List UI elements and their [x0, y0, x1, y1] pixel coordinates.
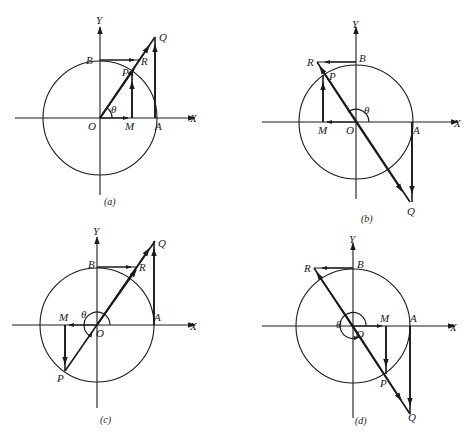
y-axis-label: Y: [352, 18, 360, 30]
point-b-label: B: [357, 258, 364, 270]
panel-caption: (a): [104, 196, 116, 208]
point-p-label: P: [379, 377, 387, 389]
angle-theta-label: θ: [111, 103, 117, 115]
panel-d: X Y O M A B P R Q θ (d): [262, 233, 458, 427]
point-a-label: A: [153, 311, 161, 323]
angle-theta-label: θ: [336, 318, 342, 330]
point-b-label: B: [359, 52, 366, 64]
point-a-label: A: [154, 120, 162, 132]
panel-caption: (b): [361, 213, 373, 225]
point-q-label: Q: [407, 205, 415, 217]
x-axis-label: X: [449, 321, 458, 333]
point-r-label: R: [138, 261, 146, 273]
panel-a: X Y O M A B P R Q θ (a): [15, 14, 198, 208]
point-p-label: P: [328, 70, 336, 82]
point-m-label: M: [379, 312, 390, 324]
x-axis-label: X: [189, 112, 198, 124]
point-r-label: R: [140, 55, 148, 67]
point-a-label: A: [412, 124, 420, 136]
angle-theta-label: θ: [81, 308, 87, 320]
y-axis-label: Y: [93, 225, 101, 237]
point-p-label: P: [121, 66, 129, 78]
point-m-label: M: [317, 124, 328, 136]
point-r-label: R: [303, 262, 311, 274]
trig-unit-circle-figure: X Y O M A B P R Q θ (a) X Y O M: [0, 0, 471, 436]
point-p-label: P: [56, 372, 64, 384]
point-r-label: R: [306, 56, 314, 68]
x-axis-label: X: [189, 320, 198, 332]
panel-b: X Y O M A B P R Q θ (b): [262, 18, 462, 225]
point-o-label: O: [346, 124, 354, 136]
angle-theta-label: θ: [364, 104, 370, 116]
point-m-label: M: [58, 311, 69, 323]
point-o-label: O: [96, 327, 104, 339]
point-q-label: Q: [159, 31, 167, 43]
point-b-label: B: [86, 54, 93, 66]
panel-caption: (c): [100, 414, 112, 426]
point-b-label: B: [88, 258, 95, 270]
point-a-label: A: [409, 312, 417, 324]
point-o-label: O: [88, 120, 96, 132]
panel-c: X Y O M A B P R Q θ (c): [12, 225, 198, 426]
x-axis-label: X: [453, 117, 462, 129]
point-q-label: Q: [408, 411, 416, 423]
point-o-label: O: [356, 328, 364, 340]
point-q-label: Q: [158, 237, 166, 249]
panel-caption: (d): [355, 415, 367, 427]
y-axis-label: Y: [96, 14, 104, 26]
y-axis-label: Y: [349, 233, 357, 245]
point-m-label: M: [124, 120, 135, 132]
